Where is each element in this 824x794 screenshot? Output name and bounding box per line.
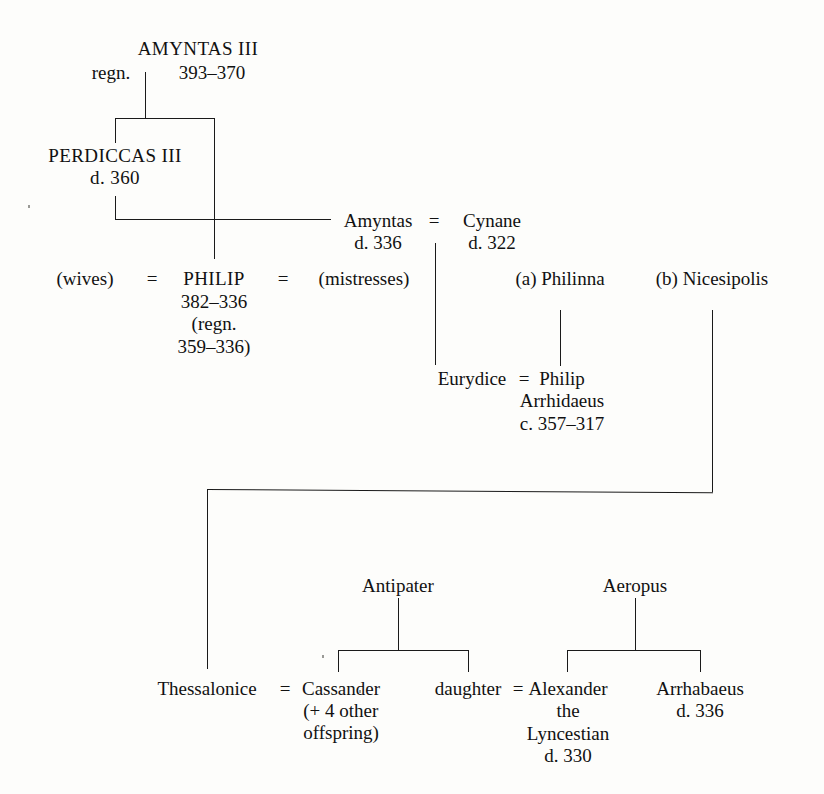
alexander-line1: Alexander: [527, 678, 609, 700]
connector-nicesipolis-descent: [712, 310, 713, 492]
alexander-dates: d. 330: [527, 745, 609, 767]
eurydice-name: Eurydice: [438, 368, 507, 390]
marriage-equals-wives-philip: =: [147, 268, 158, 290]
node-alexander-lyncestian: Alexander the Lyncestian d. 330: [527, 678, 609, 768]
connector-philinna-to-arrhidaeus: [560, 310, 561, 366]
node-philip: PHILIP: [183, 268, 245, 290]
connector-arrhabaeus-drop: [700, 650, 701, 672]
scan-artifact: [359, 690, 361, 693]
node-antipater: Antipater: [362, 575, 434, 597]
cynane-dates: d. 322: [463, 232, 521, 254]
node-arrhabaeus: Arrhabaeus d. 336: [656, 678, 744, 723]
marriage-equals-thessalonice-cassander: =: [280, 678, 291, 700]
amyntas-iii-regn-label: regn.: [92, 62, 131, 84]
connector-cassander-drop: [338, 650, 339, 672]
arrhabaeus-name: Arrhabaeus: [656, 678, 744, 700]
scan-artifact: [28, 205, 30, 208]
connector-antipater-sibling-bar: [338, 650, 468, 651]
node-perdiccas-iii: PERDICCAS III d. 360: [48, 145, 181, 190]
philip-arrhidaeus-line2: Arrhidaeus: [520, 390, 604, 412]
node-philip-detail: 382–336 (regn. 359–336): [178, 291, 251, 358]
node-cassander: Cassander: [302, 678, 380, 700]
scan-artifact: [322, 655, 324, 658]
connector-daughter-drop: [468, 650, 469, 672]
node-philip-arrhidaeus: Philip Arrhidaeus c. 357–317: [520, 368, 604, 435]
connector-cynane-to-eurydice: [435, 243, 436, 365]
connector-nicesipolis-to-thessalonice: [207, 489, 713, 493]
connector-aeropus-drop: [635, 598, 636, 650]
node-amyntas: Amyntas d. 336: [344, 210, 413, 255]
alexander-line2: the: [527, 700, 609, 722]
amyntas-iii-dates: 393–370: [179, 62, 246, 84]
antipater-name: Antipater: [362, 575, 434, 597]
philip-regn-line1: (regn.: [178, 313, 251, 335]
connector-perdiccas-drop: [115, 118, 116, 143]
connector-sibling-bar-second: [115, 219, 331, 220]
node-cynane: Cynane d. 322: [463, 210, 521, 255]
arrhabaeus-dates: d. 336: [656, 700, 744, 722]
philip-arrhidaeus-line1: Philip: [520, 368, 604, 390]
amyntas-name: Amyntas: [344, 210, 413, 232]
node-daughter: daughter: [435, 678, 501, 700]
node-thessalonice: Thessalonice: [157, 678, 256, 700]
node-eurydice: Eurydice: [438, 368, 507, 390]
connector-thessalonice-descent: [207, 489, 208, 669]
connector-aeropus-sibling-bar: [567, 650, 700, 651]
aeropus-name: Aeropus: [603, 575, 667, 597]
philip-arrhidaeus-dates: c. 357–317: [520, 413, 604, 435]
genealogy-diagram: AMYNTAS III regn. 393–370 PERDICCAS III …: [0, 0, 824, 794]
label-mistresses: (mistresses): [319, 268, 410, 290]
label-nicesipolis: (b) Nicesipolis: [656, 268, 768, 290]
connector-philip-descent: [214, 118, 215, 259]
alexander-line3: Lyncestian: [527, 723, 609, 745]
cynane-name: Cynane: [463, 210, 521, 232]
label-philinna: (a) Philinna: [515, 268, 604, 290]
node-amyntas-iii: AMYNTAS III: [138, 38, 259, 60]
connector-alexander-drop: [567, 650, 568, 672]
connector-antipater-drop: [398, 598, 399, 650]
cassander-note-line1: (+ 4 other: [303, 700, 379, 722]
cassander-name: Cassander: [302, 678, 380, 700]
connector-sibling-bar-top: [115, 118, 214, 119]
perdiccas-iii-name: PERDICCAS III: [48, 145, 181, 167]
philip-regn-line2: 359–336): [178, 336, 251, 358]
node-aeropus: Aeropus: [603, 575, 667, 597]
amyntas-iii-name: AMYNTAS III: [138, 38, 259, 60]
thessalonice-name: Thessalonice: [157, 678, 256, 700]
cassander-note-line2: offspring): [303, 722, 379, 744]
perdiccas-iii-dates: d. 360: [48, 167, 181, 189]
philip-name: PHILIP: [183, 268, 245, 290]
connector-perdiccas-descent: [115, 196, 116, 220]
connector-amyntas-iii-drop: [145, 72, 146, 118]
label-wives: (wives): [57, 268, 114, 290]
daughter-name: daughter: [435, 678, 501, 700]
node-cassander-note: (+ 4 other offspring): [303, 700, 379, 745]
philip-dates: 382–336: [178, 291, 251, 313]
amyntas-dates: d. 336: [344, 232, 413, 254]
marriage-equals-philip-mistresses: =: [278, 268, 289, 290]
marriage-equals-daughter-alexander: =: [513, 678, 524, 700]
marriage-equals-amyntas-cynane: =: [429, 210, 440, 232]
